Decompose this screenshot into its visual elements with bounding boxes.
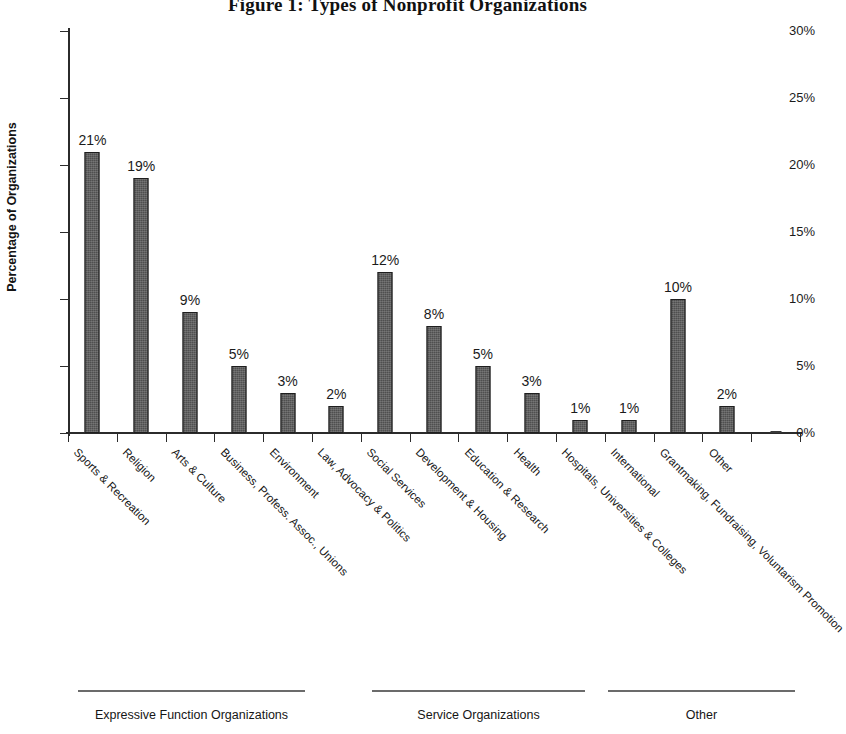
x-axis-label: Health bbox=[511, 446, 543, 478]
x-axis-label: Religion bbox=[121, 446, 159, 484]
group-bracket-line bbox=[78, 690, 305, 692]
x-axis-label: International bbox=[609, 446, 662, 499]
group-bracket-label: Other bbox=[608, 708, 795, 722]
group-bracket-label: Expressive Function Organizations bbox=[78, 708, 305, 722]
group-bracket-line bbox=[372, 690, 585, 692]
x-axis-label: Law, Advocacy & Politics bbox=[316, 446, 414, 544]
x-axis-label: Environment bbox=[267, 446, 321, 500]
x-axis-label: Development & Housing bbox=[414, 446, 510, 542]
group-bracket-label: Service Organizations bbox=[372, 708, 585, 722]
x-axis-label: Education & Research bbox=[462, 446, 551, 535]
group-bracket-line bbox=[608, 690, 795, 692]
x-axis-label: Other bbox=[706, 446, 735, 475]
x-axis-label: Grantmaking, Fundraising, Voluntarism Pr… bbox=[658, 446, 846, 634]
